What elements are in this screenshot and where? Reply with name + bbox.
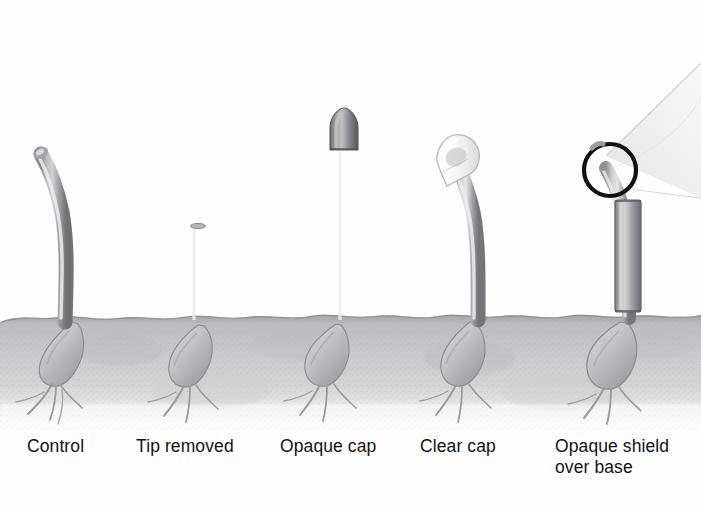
label-opaque-cap: Opaque cap bbox=[280, 436, 376, 457]
label-tip-removed: Tip removed bbox=[136, 436, 234, 457]
callout-cone bbox=[606, 63, 701, 198]
label-control: Control bbox=[27, 436, 84, 457]
opaque-cap bbox=[330, 108, 358, 150]
label-opaque-shield: Opaque shield over base bbox=[555, 436, 669, 478]
cut-tip-surface bbox=[191, 223, 206, 228]
coleoptile-control bbox=[32, 144, 66, 322]
opaque-shield-sleeve bbox=[615, 200, 641, 312]
coleoptile-opaque-cap bbox=[340, 150, 344, 320]
label-clear-cap: Clear cap bbox=[420, 436, 496, 457]
coleoptile-tip-removed bbox=[191, 223, 206, 320]
coleoptile-clear-cap bbox=[451, 160, 478, 320]
phototropism-figure: Control Tip removed Opaque cap Clear cap… bbox=[0, 0, 701, 513]
clear-cap bbox=[437, 135, 480, 186]
